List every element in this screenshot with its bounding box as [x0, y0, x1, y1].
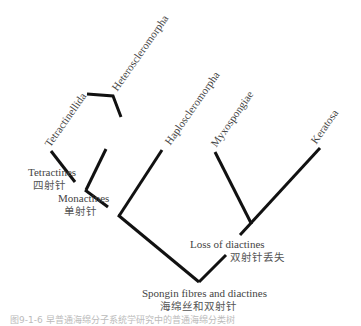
node-label-monactines: Monactines 单射针 [58, 192, 109, 218]
branch-myxospongiae [215, 152, 251, 223]
figure-caption: 图9-1-6 早普通海绵分子系统学研究中的普通海绵分类树 [10, 313, 235, 326]
node-label-monactines-zh: 单射针 [58, 205, 109, 218]
branch-loss-to-node [240, 222, 252, 235]
branch-heteroscleromorpha-bracket [87, 94, 121, 117]
node-label-spongin-en: Spongin fibres and diactines [142, 287, 267, 299]
node-label-loss-of-diactines: Loss of diactines 双射针丢失 [190, 238, 285, 264]
node-label-loss-zh: 双射针丢失 [190, 251, 285, 264]
node-label-spongin: Spongin fibres and diactines 海绵丝和双射针 [142, 287, 267, 313]
branch-haploscleromorpha [119, 150, 162, 216]
node-label-spongin-zh: 海绵丝和双射针 [142, 300, 267, 313]
node-label-tetractines-en: Tetractines [28, 166, 76, 178]
node-label-loss-en: Loss of diactines [190, 238, 265, 250]
node-label-tetractines-zh: 四射针 [28, 179, 76, 192]
node-label-tetractines: Tetractines 四射针 [28, 166, 76, 192]
branch-root-to-monactines [118, 215, 199, 282]
branch-keratosa [251, 148, 320, 223]
branch-heteroscleromorpha-stub [86, 149, 106, 190]
node-label-monactines-en: Monactines [58, 192, 109, 204]
